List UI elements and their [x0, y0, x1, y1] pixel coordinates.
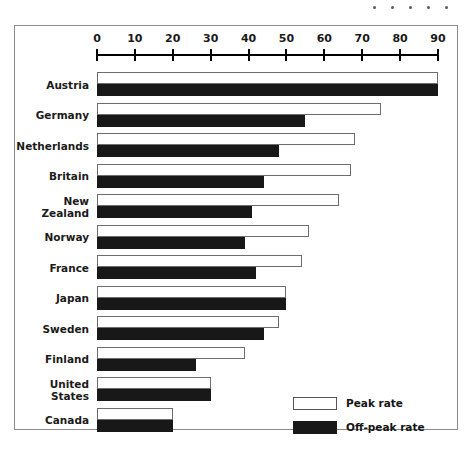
chart-row: NewZealand	[15, 192, 457, 222]
chart-row: Netherlands	[15, 131, 457, 161]
bar-off-peak-rate[interactable]	[97, 298, 286, 310]
category-label-line: Austria	[46, 79, 89, 91]
category-label-line: Zealand	[42, 207, 90, 219]
bar-off-peak-rate[interactable]	[97, 389, 211, 401]
x-axis-tick-mark	[361, 49, 363, 61]
category-label: Japan	[15, 284, 89, 314]
bar-peak-rate[interactable]	[97, 133, 355, 145]
category-label-line: Norway	[45, 231, 90, 243]
decorative-dot-row	[373, 6, 448, 9]
category-label-line: Germany	[36, 109, 89, 121]
x-axis-tick-mark	[134, 49, 136, 61]
bar-peak-rate[interactable]	[97, 255, 302, 267]
bar-off-peak-rate[interactable]	[97, 176, 264, 188]
category-label: Canada	[15, 406, 89, 436]
bar-group	[97, 225, 457, 250]
chart-legend: Peak rateOff-peak rate	[293, 396, 443, 444]
legend-swatch	[293, 421, 337, 434]
chart-frame: 0102030405060708090 AustriaGermanyNether…	[14, 25, 458, 430]
chart-row: Britain	[15, 162, 457, 192]
bar-off-peak-rate[interactable]	[97, 420, 173, 432]
x-axis-tick-mark	[323, 49, 325, 61]
category-label: Norway	[15, 223, 89, 253]
category-label-line: France	[49, 262, 89, 274]
legend-item[interactable]: Off-peak rate	[293, 420, 443, 434]
legend-item[interactable]: Peak rate	[293, 396, 443, 410]
category-label: UnitedStates	[15, 375, 89, 405]
bar-rows: AustriaGermanyNetherlandsBritainNewZeala…	[15, 70, 457, 436]
category-label-line: United	[50, 378, 89, 390]
x-axis: 0102030405060708090	[97, 32, 442, 66]
bar-off-peak-rate[interactable]	[97, 145, 279, 157]
bar-group	[97, 133, 457, 158]
bar-peak-rate[interactable]	[97, 347, 245, 359]
x-axis-tick-label: 90	[430, 32, 445, 45]
x-axis-tick-label: 50	[279, 32, 294, 45]
x-axis-tick-label: 10	[127, 32, 142, 45]
bar-group	[97, 255, 457, 280]
category-label-line: Sweden	[43, 323, 90, 335]
bar-group	[97, 347, 457, 372]
x-axis-tick-mark	[248, 49, 250, 61]
category-label: NewZealand	[15, 192, 89, 222]
x-axis-tick-mark	[96, 49, 98, 61]
bar-off-peak-rate[interactable]	[97, 237, 245, 249]
x-axis-tick-label: 0	[93, 32, 101, 45]
x-axis-tick-mark	[210, 49, 212, 61]
category-label-line: Canada	[45, 414, 89, 426]
category-label: France	[15, 253, 89, 283]
category-label: Britain	[15, 162, 89, 192]
bar-off-peak-rate[interactable]	[97, 359, 196, 371]
chart-row: Finland	[15, 345, 457, 375]
bar-group	[97, 164, 457, 189]
bar-peak-rate[interactable]	[97, 377, 211, 389]
bar-group	[97, 316, 457, 341]
bar-peak-rate[interactable]	[97, 164, 351, 176]
bar-off-peak-rate[interactable]	[97, 328, 264, 340]
x-axis-tick-mark	[437, 49, 439, 61]
bar-peak-rate[interactable]	[97, 408, 173, 420]
category-label-line: New	[63, 195, 89, 207]
chart-row: Germany	[15, 101, 457, 131]
bar-peak-rate[interactable]	[97, 225, 309, 237]
bar-peak-rate[interactable]	[97, 72, 438, 84]
decorative-dot	[373, 6, 376, 9]
bar-off-peak-rate[interactable]	[97, 84, 438, 96]
decorative-dot	[391, 6, 394, 9]
bar-off-peak-rate[interactable]	[97, 267, 256, 279]
bar-off-peak-rate[interactable]	[97, 115, 305, 127]
category-label: Finland	[15, 345, 89, 375]
bar-peak-rate[interactable]	[97, 286, 286, 298]
decorative-dot	[445, 6, 448, 9]
bar-group	[97, 286, 457, 311]
chart-row: Norway	[15, 223, 457, 253]
category-label: Sweden	[15, 314, 89, 344]
bar-peak-rate[interactable]	[97, 103, 381, 115]
x-axis-tick-label: 70	[355, 32, 370, 45]
bar-peak-rate[interactable]	[97, 194, 339, 206]
x-axis-tick-label: 30	[203, 32, 218, 45]
x-axis-tick-mark	[399, 49, 401, 61]
chart-row: Japan	[15, 284, 457, 314]
bar-peak-rate[interactable]	[97, 316, 279, 328]
legend-swatch	[293, 397, 337, 410]
category-label-line: Britain	[49, 170, 89, 182]
bar-group	[97, 72, 457, 97]
bar-group	[97, 103, 457, 128]
category-label: Germany	[15, 101, 89, 131]
x-axis-tick-label: 80	[392, 32, 407, 45]
x-axis-tick-mark	[285, 49, 287, 61]
category-label-line: Japan	[56, 292, 89, 304]
bar-off-peak-rate[interactable]	[97, 206, 252, 218]
x-axis-line	[97, 54, 438, 56]
category-label-line: Finland	[45, 353, 89, 365]
category-label-line: States	[51, 390, 89, 402]
category-label-line: Netherlands	[16, 140, 89, 152]
decorative-dot	[427, 6, 430, 9]
x-axis-tick-label: 40	[241, 32, 256, 45]
x-axis-tick-label: 20	[165, 32, 180, 45]
chart-row: France	[15, 253, 457, 283]
x-axis-tick-label: 60	[317, 32, 332, 45]
category-label: Austria	[15, 70, 89, 100]
bar-group	[97, 194, 457, 219]
